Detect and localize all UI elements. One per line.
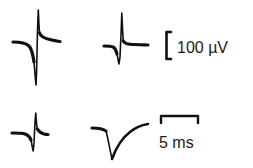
trace-3 — [12, 113, 48, 151]
amplitude-scale-bar: 100 µV — [167, 32, 229, 59]
trace-1 — [13, 10, 60, 85]
time-scale-label: 5 ms — [159, 134, 194, 151]
trace-4 — [92, 124, 148, 159]
amplitude-scale-label: 100 µV — [177, 39, 228, 56]
time-scale-bar: 5 ms — [159, 116, 198, 151]
waveform-figure: 100 µV 5 ms — [0, 0, 253, 168]
trace-2 — [104, 13, 148, 64]
